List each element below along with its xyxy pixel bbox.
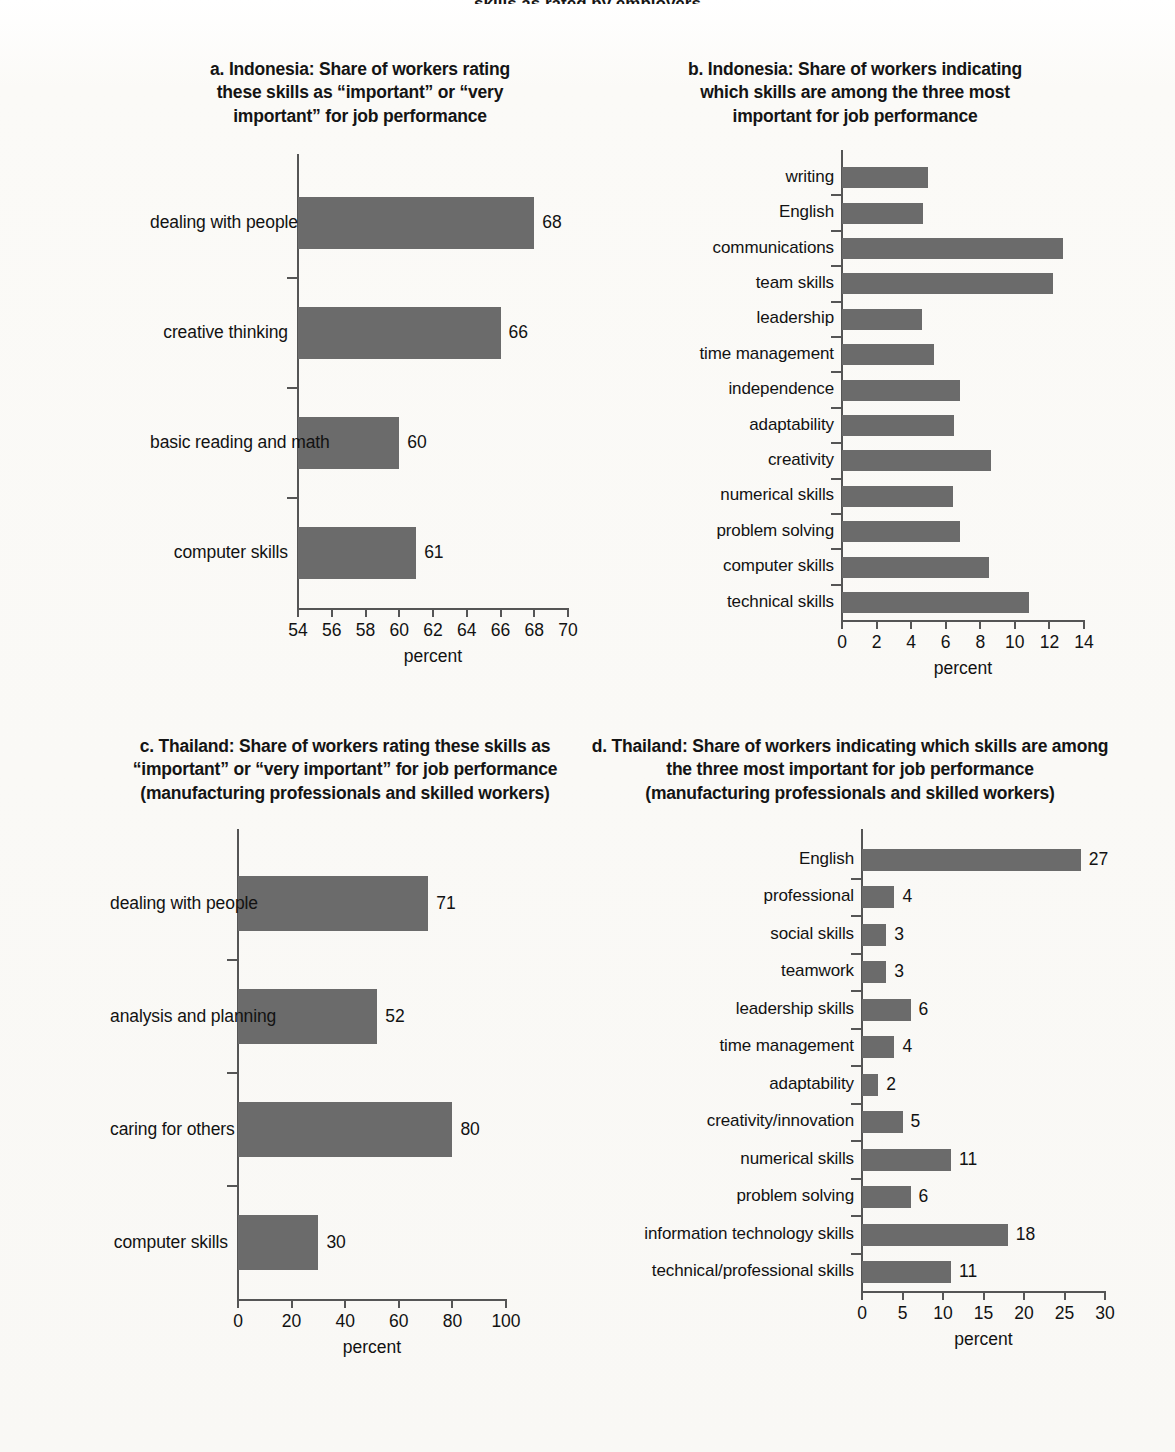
bar — [862, 1036, 894, 1058]
plot-d-y-tick — [851, 1065, 861, 1067]
value-label: 18 — [1016, 1224, 1035, 1245]
value-label: 6 — [919, 999, 929, 1020]
plot-b-x-axis-title: percent — [863, 658, 1063, 679]
plot-b-y-tick — [831, 336, 841, 338]
plot-d-x-tick — [1104, 1291, 1106, 1300]
plot-c-x-tick — [398, 1299, 400, 1308]
plot-d-x-tick — [1064, 1291, 1066, 1300]
plot-a-x-tick — [297, 608, 299, 617]
plot-c-x-tick — [505, 1299, 507, 1308]
value-label: 68 — [542, 212, 561, 233]
category-label: analysis and planning — [110, 1006, 228, 1027]
plot-b-y-tick — [831, 442, 841, 444]
plot-b-x-tick — [945, 620, 947, 629]
plot-c-y-tick — [227, 1072, 237, 1074]
bar — [862, 1261, 951, 1283]
plot-d-x-tick — [983, 1291, 985, 1300]
plot-a-x-tick — [466, 608, 468, 617]
plot-b-x-tick — [910, 620, 912, 629]
plot-a-x-tick-label: 70 — [538, 620, 598, 641]
value-label: 4 — [902, 1036, 912, 1057]
panel-a: a. Indonesia: Share of workers rating th… — [150, 58, 570, 678]
bar — [842, 309, 922, 330]
plot-d-x-tick — [861, 1291, 863, 1300]
category-label: computer skills — [620, 556, 834, 576]
panel-d-title-line-2: the three most important for job perform… — [590, 758, 1110, 781]
panel-a-title-line-1: a. Indonesia: Share of workers rating — [150, 58, 570, 81]
bar — [842, 238, 1063, 259]
plot-d-x-tick — [902, 1291, 904, 1300]
plot-d-y-tick — [851, 990, 861, 992]
category-label: caring for others — [110, 1119, 228, 1140]
bar — [842, 415, 954, 436]
plot-c-x-tick — [291, 1299, 293, 1308]
plot-d-y-tick — [851, 1140, 861, 1142]
plot-b-y-tick — [831, 301, 841, 303]
bar — [238, 1102, 452, 1157]
bar — [842, 380, 960, 401]
category-label: independence — [620, 379, 834, 399]
category-label: leadership skills — [590, 999, 854, 1019]
plot-a-y-tick — [287, 277, 297, 279]
bar — [842, 203, 923, 224]
plot-a-x-tick — [432, 608, 434, 617]
category-label: social skills — [590, 924, 854, 944]
panel-c-title-line-2: “important” or “very important” for job … — [110, 758, 580, 781]
category-label: adaptability — [620, 415, 834, 435]
value-label: 6 — [919, 1186, 929, 1207]
bar — [238, 1215, 318, 1270]
plot-b-y-tick — [831, 548, 841, 550]
bar — [862, 1074, 878, 1096]
bar — [842, 167, 928, 188]
plot-d-y-tick — [851, 953, 861, 955]
plot-b-x-tick — [841, 620, 843, 629]
plot-b-y-tick — [831, 230, 841, 232]
category-label: creativity/innovation — [590, 1111, 854, 1131]
value-label: 60 — [407, 432, 426, 453]
plot-b-x-tick — [979, 620, 981, 629]
bar — [862, 1111, 903, 1133]
plot-b-y-tick — [831, 371, 841, 373]
value-label: 80 — [460, 1119, 479, 1140]
panel-b-title-line-1: b. Indonesia: Share of workers indicatin… — [620, 58, 1090, 81]
panel-c-plot-area: 020406080100percentdealing with people71… — [110, 827, 580, 1367]
value-label: 2 — [886, 1074, 896, 1095]
value-label: 71 — [436, 893, 455, 914]
cropped-figure-heading: skills as rated by employers — [0, 0, 1175, 4]
panel-c-title-line-3: (manufacturing professionals and skilled… — [110, 782, 580, 805]
panel-a-title-line-2: these skills as “important” or “very — [150, 81, 570, 104]
plot-d-y-tick — [851, 1028, 861, 1030]
plot-b-x-tick — [876, 620, 878, 629]
plot-a-x-tick — [331, 608, 333, 617]
plot-c-x-tick — [237, 1299, 239, 1308]
plot-a-x-tick — [567, 608, 569, 617]
panel-c: c. Thailand: Share of workers rating the… — [110, 735, 580, 1375]
plot-d-x-axis-title: percent — [884, 1329, 1084, 1350]
bar — [862, 849, 1081, 871]
panel-b-title-line-3: important for job performance — [620, 105, 1090, 128]
value-label: 61 — [424, 542, 443, 563]
value-label: 11 — [959, 1261, 977, 1282]
value-label: 5 — [911, 1111, 921, 1132]
plot-c-x-tick — [344, 1299, 346, 1308]
plot-b-y-tick — [831, 194, 841, 196]
plot-c-x-axis-line — [238, 1299, 506, 1301]
plot-d-y-tick — [851, 1178, 861, 1180]
plot-a-y-tick — [287, 497, 297, 499]
panel-b: b. Indonesia: Share of workers indicatin… — [620, 58, 1090, 678]
category-label: writing — [620, 167, 834, 187]
bar — [862, 1224, 1008, 1246]
plot-d-x-tick-label: 30 — [1075, 1303, 1135, 1324]
bar — [298, 197, 534, 249]
plot-d-y-tick — [851, 1103, 861, 1105]
value-label: 27 — [1089, 849, 1108, 870]
plot-d-y-tick — [851, 878, 861, 880]
bar — [298, 307, 501, 359]
panel-b-title-line-2: which skills are among the three most — [620, 81, 1090, 104]
value-label: 11 — [959, 1149, 977, 1170]
value-label: 3 — [894, 924, 904, 945]
panel-a-title: a. Indonesia: Share of workers rating th… — [150, 58, 570, 128]
plot-b-y-tick — [831, 265, 841, 267]
category-label: leadership — [620, 308, 834, 328]
panel-c-title: c. Thailand: Share of workers rating the… — [110, 735, 580, 805]
